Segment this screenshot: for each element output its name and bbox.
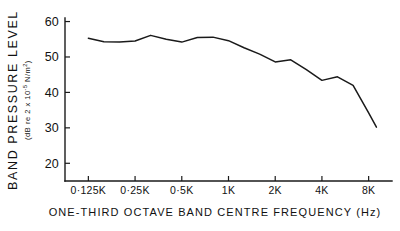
x-axis-tick-label: 4K — [315, 184, 328, 196]
y-axis-ticks: 2030405060 — [45, 15, 70, 171]
y-axis-tick-label: 60 — [45, 15, 59, 29]
chart-container: BAND PRESSURE LEVEL (dB re 2 x 10-5 N/m2… — [0, 0, 400, 231]
x-axis-ticks: 0·125K0·25K0·5K1K2K4K8K — [71, 176, 376, 196]
y-axis-tick-label: 50 — [45, 50, 59, 64]
y-axis-tick-label: 40 — [45, 86, 59, 100]
x-axis-title: ONE-THIRD OCTAVE BAND CENTRE FREQUENCY (… — [49, 206, 382, 218]
y-axis-subtitle-close: ) — [23, 60, 32, 63]
x-axis-tick-label: 0·125K — [71, 184, 107, 196]
x-axis-tick-label: 8K — [362, 184, 375, 196]
y-axis-subtitle-tail: N/m — [23, 67, 32, 85]
x-axis-tick-label: 0·5K — [170, 184, 193, 196]
y-axis-subtitle-main: (dB re 2 x 10 — [23, 90, 32, 139]
y-axis-tick-label: 20 — [45, 157, 59, 171]
y-axis-tick-label: 30 — [45, 121, 59, 135]
y-axis-title: BAND PRESSURE LEVEL — [6, 10, 20, 190]
y-axis-title-group: BAND PRESSURE LEVEL (dB re 2 x 10-5 N/m2… — [6, 10, 32, 190]
band-pressure-level-chart: BAND PRESSURE LEVEL (dB re 2 x 10-5 N/m2… — [0, 0, 400, 231]
x-axis-tick-label: 0·25K — [120, 184, 150, 196]
y-axis-subtitle: (dB re 2 x 10-5 N/m2) — [22, 60, 32, 140]
x-axis-tick-label: 1K — [222, 184, 235, 196]
data-series-line — [88, 35, 376, 127]
x-axis-tick-label: 2K — [268, 184, 281, 196]
